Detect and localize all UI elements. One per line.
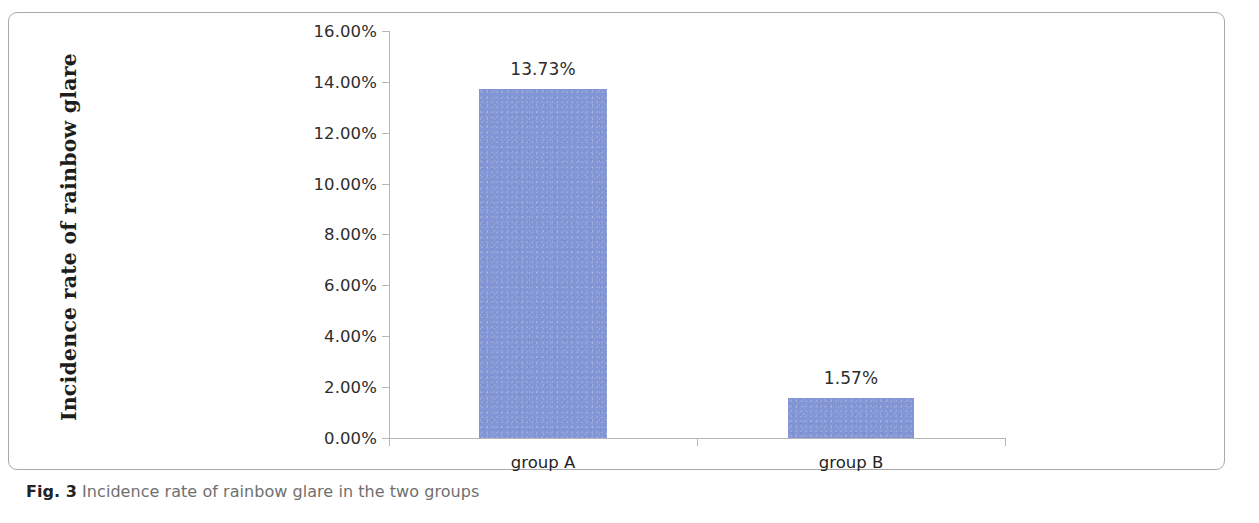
y-axis-tick xyxy=(382,387,390,388)
figure-image-frame: 16.00% 14.00% 12.00% 10.00% 8.00% 6.00% … xyxy=(8,12,1225,470)
y-axis-tick-label: 2.00% xyxy=(285,378,377,397)
y-axis-tick-label: 6.00% xyxy=(285,276,377,295)
figure-container: 16.00% 14.00% 12.00% 10.00% 8.00% 6.00% … xyxy=(0,0,1259,523)
bar-group-a[interactable] xyxy=(479,89,607,438)
y-axis-tick-label: 8.00% xyxy=(285,225,377,244)
y-axis-tick-label: 4.00% xyxy=(285,327,377,346)
y-axis-title: Incidence rate of rainbow glare xyxy=(57,37,81,437)
y-axis-tick xyxy=(382,285,390,286)
bar-value-label-group-b: 1.57% xyxy=(771,368,931,388)
y-axis-tick xyxy=(382,234,390,235)
y-axis-tick-label: 0.00% xyxy=(285,429,377,448)
y-axis-tick xyxy=(382,184,390,185)
bar-value-label-group-a: 13.73% xyxy=(463,59,623,79)
x-axis-tick xyxy=(1005,438,1006,446)
bar-group-b[interactable] xyxy=(788,398,914,438)
y-axis-tick-label: 16.00% xyxy=(285,22,377,41)
y-axis-tick-label: 12.00% xyxy=(285,124,377,143)
figure-caption-number: Fig. 3 xyxy=(26,482,77,501)
y-axis-tick xyxy=(382,31,390,32)
y-axis-tick-label: 10.00% xyxy=(285,175,377,194)
x-axis-category-label-group-a: group A xyxy=(463,453,623,472)
y-axis-line xyxy=(389,31,390,439)
bar-chart: 16.00% 14.00% 12.00% 10.00% 8.00% 6.00% … xyxy=(9,13,1226,471)
figure-caption: Fig. 3 Incidence rate of rainbow glare i… xyxy=(26,482,479,501)
figure-caption-text: Incidence rate of rainbow glare in the t… xyxy=(82,482,479,501)
x-axis-tick xyxy=(697,438,698,446)
y-axis-tick xyxy=(382,133,390,134)
x-axis-tick xyxy=(389,438,390,446)
y-axis-tick-label: 14.00% xyxy=(285,73,377,92)
x-axis-category-label-group-b: group B xyxy=(771,453,931,472)
y-axis-tick xyxy=(382,82,390,83)
y-axis-tick xyxy=(382,336,390,337)
